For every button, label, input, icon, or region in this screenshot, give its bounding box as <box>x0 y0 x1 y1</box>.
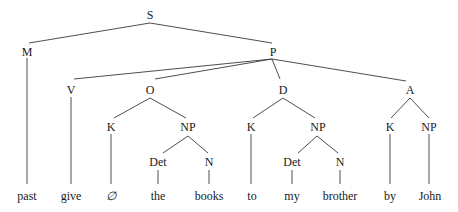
leaf-the: the <box>151 189 166 203</box>
node-D-Det: Det <box>283 155 301 169</box>
node-D-N: N <box>336 155 345 169</box>
tree-leaves: past give ∅ the books to my brother by J… <box>17 189 441 203</box>
leaf-John: John <box>419 189 442 203</box>
leaf-books: books <box>195 189 224 203</box>
node-A-NP: NP <box>421 120 437 134</box>
syntax-tree: S M P V O D A K NP K NP K NP Det N Det N… <box>0 0 458 212</box>
tree-nodes: S M P V O D A K NP K NP K NP Det N Det N <box>22 8 437 169</box>
leaf-give: give <box>61 189 82 203</box>
node-A: A <box>406 83 415 97</box>
node-D-NP: NP <box>310 120 326 134</box>
node-A-K: K <box>386 120 395 134</box>
node-O-Det: Det <box>149 155 167 169</box>
node-P: P <box>270 45 277 59</box>
node-O: O <box>146 83 155 97</box>
node-D-K: K <box>247 120 256 134</box>
tree-edges <box>27 23 429 184</box>
leaf-null: ∅ <box>106 189 117 203</box>
leaf-my: my <box>284 189 299 203</box>
node-O-K: K <box>107 120 116 134</box>
leaf-by: by <box>384 189 396 203</box>
node-M: M <box>22 45 33 59</box>
node-O-NP: NP <box>180 120 196 134</box>
leaf-to: to <box>247 189 256 203</box>
node-D: D <box>279 83 288 97</box>
leaf-brother: brother <box>323 189 358 203</box>
node-O-N: N <box>205 155 214 169</box>
leaf-past: past <box>17 189 37 203</box>
node-V: V <box>67 83 76 97</box>
node-S: S <box>147 8 154 22</box>
